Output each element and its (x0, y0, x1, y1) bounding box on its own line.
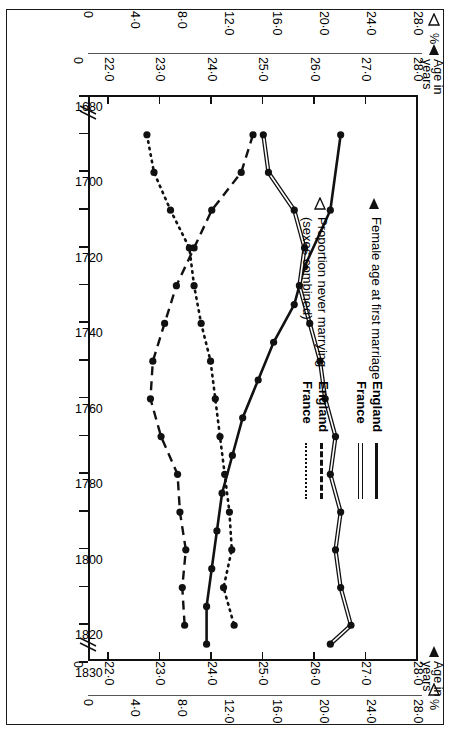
data-point (249, 131, 256, 138)
data-point (207, 358, 214, 365)
axis-break-mark (76, 103, 100, 121)
age-tick-label: 25·0 (256, 661, 270, 685)
data-point (203, 603, 210, 610)
age-tick-label: 25·0 (256, 57, 270, 81)
data-point (216, 433, 223, 440)
series-france-never-marrying (143, 131, 237, 629)
data-point (239, 414, 246, 421)
axis-tick-row: 16·0 (270, 661, 284, 736)
data-point (147, 395, 154, 402)
percent-tick-label: 4·0 (128, 699, 142, 716)
data-point (176, 508, 183, 515)
age-tick-label: 23·0 (153, 57, 167, 81)
axis-tick-row: 16·0 (270, 9, 284, 95)
data-point (332, 546, 339, 553)
filled-triangle-icon (428, 645, 440, 659)
percent-tick-label: 24·0 (364, 699, 378, 723)
data-point (208, 207, 215, 214)
data-point (226, 508, 233, 515)
percent-tick-label: 8·0 (175, 699, 189, 716)
legend-label-france-pct: France (299, 381, 315, 424)
axis-tick-row: 25·0 (256, 661, 270, 736)
chart-legend: Female age at first marriage England Fra… (264, 197, 384, 497)
axis-tick-mark (107, 95, 109, 104)
x-axis-tick (79, 133, 88, 135)
x-axis-tick (79, 170, 88, 172)
x-axis-label: 1800 (75, 553, 103, 567)
axis-tick-row: 8·0 (175, 9, 189, 95)
percent-tick-label: 8·0 (175, 11, 189, 28)
percent-tick-label: 0 (81, 11, 95, 18)
x-axis-tick (79, 321, 88, 323)
axis-tick-mark (365, 652, 367, 661)
series-england-never-marrying (147, 131, 257, 629)
data-point (179, 584, 186, 591)
axis-tick-row: 4·0 (128, 9, 142, 95)
axis-tick-row: 4·0 (128, 661, 142, 736)
right-axis-labels: 28·027·026·025·024·023·022·0028·024·020·… (88, 661, 418, 736)
percent-tick-label: 12·0 (222, 699, 236, 723)
open-triangle-icon (428, 13, 440, 27)
axis-break-mark (76, 635, 100, 653)
series-line (150, 135, 253, 626)
data-point (181, 622, 188, 629)
data-point (203, 641, 210, 648)
age-tick-label: 24·0 (205, 661, 219, 685)
percent-tick-label: 24·0 (364, 11, 378, 35)
axis-tick-mark (159, 95, 161, 104)
x-axis-label: 1740 (75, 326, 103, 340)
age-tick-label: 22·0 (102, 57, 116, 81)
x-axis-tick (79, 548, 88, 550)
axis-tick-row: 23·0 (153, 9, 167, 95)
data-point (337, 508, 344, 515)
data-point (190, 282, 197, 289)
figure-page: 28·027·026·025·024·023·022·0028·024·020·… (0, 0, 453, 736)
data-point (221, 471, 228, 478)
legend-heading-line1: Proportion never marrying (315, 217, 330, 367)
legend-swatch-dotted (305, 443, 307, 499)
axis-tick-mark (365, 95, 367, 104)
data-point (186, 244, 193, 251)
data-point (157, 433, 164, 440)
open-triangle-icon (428, 683, 440, 697)
axis-tick-mark (313, 95, 315, 104)
data-point (208, 565, 215, 572)
x-axis-tick (79, 623, 88, 625)
data-point (337, 584, 344, 591)
percent-tick-label: 28·0 (411, 699, 425, 723)
axis-tick-mark (210, 95, 212, 104)
data-point (218, 490, 225, 497)
x-axis-tick (79, 435, 88, 437)
axis-tick-mark (159, 652, 161, 661)
data-point (161, 320, 168, 327)
data-point (149, 358, 156, 365)
axis-tick-mark (262, 652, 264, 661)
axis-tick-row: 23·0 (153, 661, 167, 736)
chart-figure: 28·027·026·025·024·023·022·0028·024·020·… (6, 9, 444, 725)
data-point (173, 282, 180, 289)
axis-tick-row: 24·0 (205, 661, 219, 736)
legend-swatch-solid (375, 443, 378, 499)
legend-label-france-age: France (353, 381, 369, 424)
data-point (255, 376, 262, 383)
percent-tick-label: 20·0 (317, 11, 331, 35)
data-point (231, 622, 238, 629)
x-axis-tick (79, 472, 88, 474)
axis-tick-mark (313, 652, 315, 661)
left-axis-labels: 28·027·026·025·024·023·022·0028·024·020·… (88, 9, 418, 95)
data-point (260, 131, 267, 138)
data-point (143, 131, 150, 138)
percent-tick-label: 28·0 (411, 11, 425, 35)
percent-tick-label: 20·0 (317, 699, 331, 723)
x-axis: 168017001720174017601780180018201830 (18, 95, 88, 661)
legend-heading-line2: (sexes combined) (300, 217, 315, 367)
axis-tick-row: 0 (81, 9, 95, 95)
axis-tick-row: 22·0 (102, 661, 116, 736)
right-pct-caption: % (428, 699, 440, 710)
percent-tick-label: 12·0 (222, 11, 236, 35)
axis-tick-row: 20·0 (317, 9, 331, 95)
axis-tick-mark (262, 95, 264, 104)
axis-tick-row: 24·0 (364, 661, 378, 736)
data-point (327, 641, 334, 648)
axis-tick-mark (210, 652, 212, 661)
